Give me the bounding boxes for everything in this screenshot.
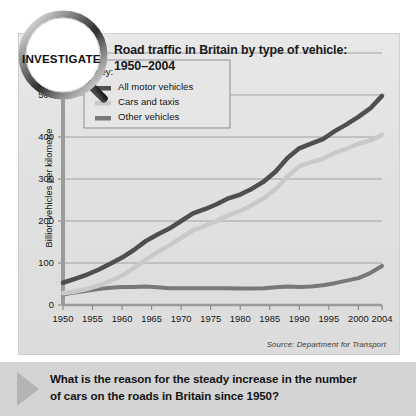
question-text: What is the reason for the steady increa… bbox=[50, 371, 402, 404]
y-tick-label: 500 bbox=[38, 89, 54, 100]
page-root: 0100200300400500600 19501955196019651970… bbox=[0, 0, 416, 416]
question-line2: of cars on the roads in Britain since 19… bbox=[50, 388, 402, 405]
page-title-line1: Road traffic in Britain by type of vehic… bbox=[114, 43, 347, 57]
triangle-right-icon bbox=[17, 372, 39, 406]
question-line1: What is the reason for the steady increa… bbox=[50, 371, 402, 388]
investigate-badge-label: INVESTIGATE bbox=[22, 52, 101, 65]
x-tick-label: 1985 bbox=[259, 313, 280, 324]
x-tick-label: 1970 bbox=[171, 313, 192, 324]
x-tick-label: 1990 bbox=[289, 313, 310, 324]
legend-swatch bbox=[95, 86, 111, 91]
chart-container: 0100200300400500600 19501955196019651970… bbox=[18, 33, 400, 355]
y-axis-title: Billion vehicles per kilometre bbox=[44, 113, 54, 263]
chart-source: Source: Department for Transport bbox=[267, 340, 386, 349]
x-tick-label: 2000 bbox=[348, 313, 369, 324]
x-tick-label: 1965 bbox=[141, 313, 162, 324]
x-tick-label: 1950 bbox=[53, 313, 74, 324]
x-tick-label: 2004 bbox=[372, 313, 393, 324]
x-tick-label: 1955 bbox=[82, 313, 103, 324]
page-title-line2: 1950–2004 bbox=[114, 58, 396, 74]
x-tick-label: 1975 bbox=[200, 313, 221, 324]
x-tick-label: 1960 bbox=[112, 313, 133, 324]
legend-label: Cars and taxis bbox=[118, 96, 180, 107]
question-bar: What is the reason for the steady increa… bbox=[0, 362, 416, 416]
page-title: Road traffic in Britain by type of vehic… bbox=[114, 42, 396, 74]
legend-label: All motor vehicles bbox=[118, 81, 193, 92]
y-tick-label: 0 bbox=[49, 299, 54, 310]
legend-swatch bbox=[95, 116, 111, 121]
legend-heading: Key: bbox=[94, 66, 113, 77]
legend-label: Other vehicles bbox=[118, 111, 180, 122]
traffic-line-chart: 0100200300400500600 19501955196019651970… bbox=[18, 33, 400, 355]
x-tick-label: 1980 bbox=[230, 313, 251, 324]
legend-swatch bbox=[95, 101, 111, 106]
x-tick-label: 1995 bbox=[318, 313, 339, 324]
x-axis-tick-labels: 1950195519601965197019751980198519901995… bbox=[53, 313, 393, 324]
series-cars-and-taxis bbox=[63, 135, 382, 293]
